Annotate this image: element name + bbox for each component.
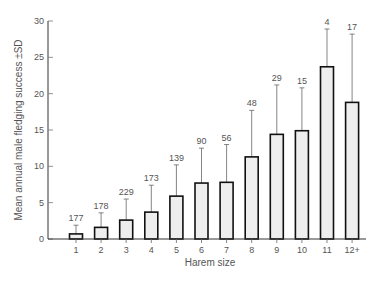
bar-group: 29 <box>270 73 283 239</box>
x-tick-label: 7 <box>224 245 229 255</box>
bar <box>95 227 108 239</box>
sample-size-label: 229 <box>119 187 134 197</box>
sample-size-label: 29 <box>272 73 282 83</box>
bar-group: 229 <box>119 187 134 239</box>
x-tick-label: 2 <box>99 245 104 255</box>
bar-chart: 051015202530 177178229173139905648291541… <box>0 0 383 284</box>
bar <box>220 182 233 239</box>
x-axis: 123456789101112+ <box>48 239 366 255</box>
bar-group: 139 <box>169 153 184 239</box>
y-tick-label: 0 <box>39 234 44 244</box>
y-tick-label: 30 <box>34 16 44 26</box>
bar <box>70 234 83 239</box>
sample-size-label: 90 <box>196 136 206 146</box>
x-tick-label: 11 <box>322 245 331 255</box>
sample-size-label: 4 <box>324 17 329 27</box>
y-axis-label: Mean annual male fledging success ±SD <box>13 39 24 220</box>
bar-group: 4 <box>321 17 334 239</box>
sample-size-label: 48 <box>247 98 257 108</box>
bar <box>321 67 334 239</box>
sample-size-label: 178 <box>94 201 109 211</box>
x-tick-label: 4 <box>149 245 154 255</box>
y-tick-label: 10 <box>34 161 44 171</box>
bar-group: 178 <box>94 201 109 239</box>
bar <box>295 131 308 239</box>
bar-group: 15 <box>295 76 308 239</box>
bar <box>170 196 183 239</box>
x-tick-label: 9 <box>274 245 279 255</box>
x-tick-label: 3 <box>124 245 129 255</box>
bar <box>195 183 208 239</box>
y-axis: 051015202530 <box>34 16 53 244</box>
sample-size-label: 17 <box>347 22 357 32</box>
bar-group: 17 <box>346 22 359 239</box>
bar-group: 173 <box>144 173 159 239</box>
x-axis-label: Harem size <box>185 257 236 268</box>
bar-group: 177 <box>68 213 83 239</box>
bar-group: 90 <box>195 136 208 239</box>
bar-group: 48 <box>245 98 258 239</box>
bar <box>145 212 158 239</box>
x-tick-label: 1 <box>73 245 78 255</box>
x-tick-label: 12+ <box>344 245 359 255</box>
bars: 1771782291731399056482915417 <box>68 17 358 239</box>
bar <box>120 220 133 239</box>
x-tick-label: 8 <box>249 245 254 255</box>
y-tick-label: 5 <box>39 198 44 208</box>
bar-group: 56 <box>220 133 233 239</box>
x-tick-label: 5 <box>174 245 179 255</box>
y-tick-label: 20 <box>34 89 44 99</box>
sample-size-label: 139 <box>169 153 184 163</box>
sample-size-label: 173 <box>144 173 159 183</box>
sample-size-label: 15 <box>297 76 307 86</box>
sample-size-label: 56 <box>222 133 232 143</box>
x-tick-label: 6 <box>199 245 204 255</box>
x-tick-label: 10 <box>297 245 307 255</box>
y-tick-label: 15 <box>34 125 44 135</box>
bar <box>245 157 258 239</box>
sample-size-label: 177 <box>68 213 83 223</box>
bar <box>346 102 359 239</box>
bar <box>270 134 283 239</box>
y-tick-label: 25 <box>34 52 44 62</box>
